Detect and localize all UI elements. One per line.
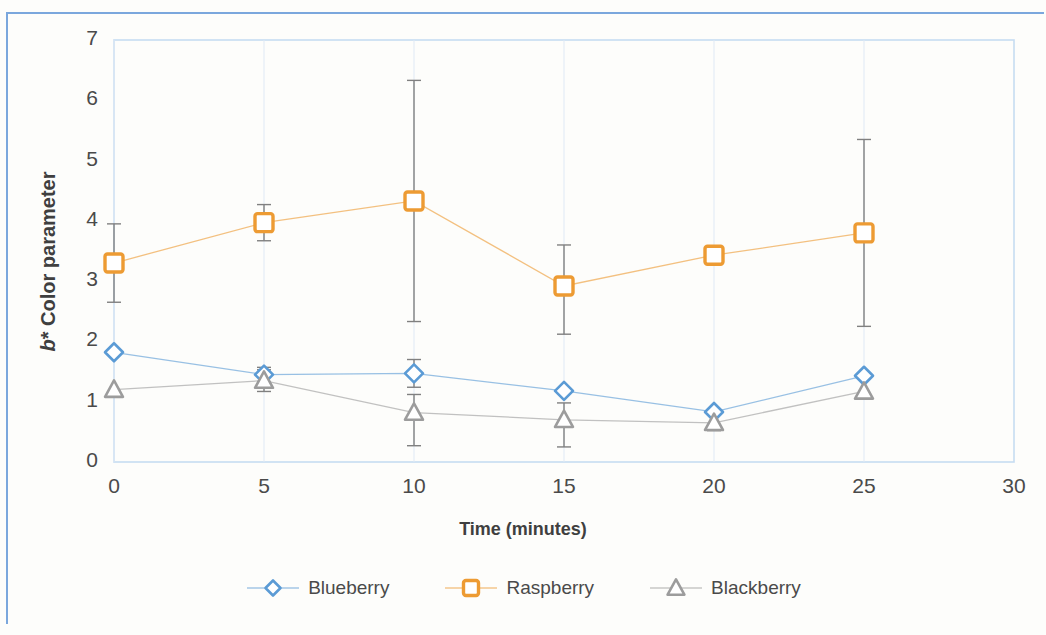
data-point-marker xyxy=(555,382,573,400)
y-tick-label: 7 xyxy=(58,26,98,50)
chart-page: b* Color parameter Time (minutes) 012345… xyxy=(0,0,1046,635)
x-axis-title: Time (minutes) xyxy=(0,519,1046,540)
data-point-marker xyxy=(705,246,723,264)
x-tick-label: 10 xyxy=(389,474,439,498)
y-axis-title-italic-b: b xyxy=(37,339,59,351)
data-point-marker xyxy=(464,581,479,596)
data-point-marker xyxy=(855,382,873,398)
x-tick-label: 25 xyxy=(839,474,889,498)
data-point-marker xyxy=(105,254,123,272)
series-line-raspberry xyxy=(114,201,864,286)
series-line-blackberry xyxy=(114,381,864,423)
x-tick-label: 20 xyxy=(689,474,739,498)
legend-entry-raspberry[interactable]: Raspberry xyxy=(443,575,594,601)
y-tick-label: 3 xyxy=(58,267,98,291)
y-tick-label: 0 xyxy=(58,448,98,472)
y-tick-label: 6 xyxy=(58,86,98,110)
series-line-blueberry xyxy=(114,352,864,412)
x-tick-label: 5 xyxy=(239,474,289,498)
y-tick-label: 1 xyxy=(58,388,98,412)
data-point-marker xyxy=(405,364,423,382)
y-axis-title-rest: * Color parameter xyxy=(37,171,59,339)
legend-marker-triangle-icon xyxy=(648,575,704,601)
data-point-marker xyxy=(105,343,123,361)
data-point-marker xyxy=(255,214,273,232)
x-tick-label: 0 xyxy=(89,474,139,498)
y-axis-title: b* Color parameter xyxy=(37,132,60,392)
data-point-marker xyxy=(405,192,423,210)
data-point-marker xyxy=(668,579,685,594)
data-point-marker xyxy=(266,581,281,596)
y-tick-label: 5 xyxy=(58,147,98,171)
legend-label: Raspberry xyxy=(506,577,594,599)
legend-marker-diamond-icon xyxy=(245,575,301,601)
data-point-marker xyxy=(555,411,573,427)
x-tick-label: 30 xyxy=(989,474,1039,498)
data-point-marker xyxy=(555,277,573,295)
data-point-marker xyxy=(855,224,873,242)
y-tick-label: 4 xyxy=(58,207,98,231)
legend-entry-blackberry[interactable]: Blackberry xyxy=(648,575,801,601)
legend-label: Blackberry xyxy=(711,577,801,599)
x-tick-label: 15 xyxy=(539,474,589,498)
chart-legend: BlueberryRaspberryBlackberry xyxy=(0,575,1046,601)
y-tick-label: 2 xyxy=(58,327,98,351)
legend-entry-blueberry[interactable]: Blueberry xyxy=(245,575,389,601)
legend-marker-square-icon xyxy=(443,575,499,601)
legend-label: Blueberry xyxy=(308,577,389,599)
